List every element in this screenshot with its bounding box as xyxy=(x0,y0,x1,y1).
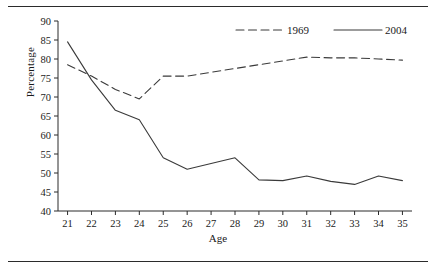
top-horizontal-rule xyxy=(8,6,428,7)
x-tick-label: 33 xyxy=(349,218,360,229)
figure-container: 4045505560657075808590 21222324252627282… xyxy=(0,0,436,273)
x-tick-label: 30 xyxy=(278,218,289,229)
x-tick-label: 31 xyxy=(302,218,313,229)
x-tick-label: 27 xyxy=(206,218,217,229)
y-axis-title: Percentage xyxy=(24,12,44,132)
x-tick-label: 22 xyxy=(86,218,97,229)
data-series-group xyxy=(68,42,403,185)
x-tick-label: 34 xyxy=(373,218,384,229)
x-tick-label: 29 xyxy=(254,218,265,229)
y-tick-label: 55 xyxy=(41,149,52,160)
series-line-1969 xyxy=(68,57,403,99)
x-tick-label: 24 xyxy=(134,218,145,229)
x-tick-label: 21 xyxy=(62,218,73,229)
series-line-2004 xyxy=(68,42,403,185)
x-tick-label: 35 xyxy=(397,218,408,229)
x-tick-label: 32 xyxy=(325,218,336,229)
x-tick-label: 25 xyxy=(158,218,169,229)
x-tick-label: 26 xyxy=(182,218,193,229)
legend-label-2004: 2004 xyxy=(385,24,408,36)
plot-area: 4045505560657075808590 21222324252627282… xyxy=(0,10,436,255)
x-axis: 212223242526272829303132333435 xyxy=(58,211,412,229)
legend-label-1969: 1969 xyxy=(287,24,310,36)
y-tick-label: 50 xyxy=(41,168,52,179)
line-chart: 4045505560657075808590 21222324252627282… xyxy=(0,10,436,255)
x-tick-label: 23 xyxy=(110,218,121,229)
y-tick-label: 45 xyxy=(41,187,52,198)
chart-legend: 19692004 xyxy=(236,24,408,36)
bottom-horizontal-rule xyxy=(8,261,428,262)
x-tick-label: 28 xyxy=(230,218,241,229)
y-tick-label: 40 xyxy=(41,206,52,217)
x-axis-title: Age xyxy=(0,232,436,244)
